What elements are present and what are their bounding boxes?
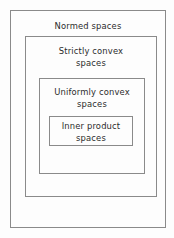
box-inner-product-spaces: Inner product spaces (49, 116, 133, 146)
box-strictly-convex-spaces: Strictly convex spaces Uniformly convex … (25, 36, 157, 197)
box-label-uniformly-convex-spaces: Uniformly convex spaces (40, 87, 144, 110)
box-label-strictly-convex-spaces: Strictly convex spaces (26, 46, 156, 69)
box-normed-spaces: Normed spaces Strictly convex spaces Uni… (10, 10, 166, 228)
box-label-normed-spaces: Normed spaces (11, 21, 165, 33)
box-label-inner-product-spaces: Inner product spaces (50, 121, 132, 144)
nested-spaces-diagram: Normed spaces Strictly convex spaces Uni… (0, 0, 174, 238)
box-uniformly-convex-spaces: Uniformly convex spaces Inner product sp… (39, 78, 145, 174)
